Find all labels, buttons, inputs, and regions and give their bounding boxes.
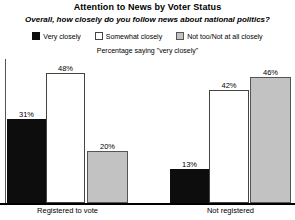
chart-legend: Very closely Somewhat closely Not too/No… (0, 30, 295, 42)
bar-registered-not-too-closely (87, 151, 128, 203)
bar-value-label: 42% (209, 81, 249, 90)
chart-note: Percentage saying "very closely" (0, 46, 295, 55)
legend-label: Not too/Not at all closely (187, 32, 262, 41)
bar-value-label: 48% (46, 64, 85, 73)
legend-label: Somewhat closely (106, 32, 162, 41)
legend-item-not-too-closely: Not too/Not at all closely (176, 32, 262, 41)
legend-item-very-closely: Very closely (32, 32, 80, 41)
legend-swatch-icon (176, 32, 184, 40)
chart-title: Attention to News by Voter Status (0, 2, 295, 13)
bar-value-label: 31% (7, 110, 46, 119)
bar-value-label: 46% (250, 68, 291, 77)
bar-chart: Attention to News by Voter Status Overal… (0, 0, 295, 220)
bar-registered-somewhat-closely (46, 73, 85, 203)
bar-registered-very-closely (7, 119, 46, 203)
legend-swatch-icon (32, 32, 40, 40)
plot-area: 31% 48% 20% Registered to vote 13% 42% 4… (0, 55, 295, 220)
bar-value-label: 13% (170, 160, 209, 169)
legend-swatch-icon (95, 32, 103, 40)
bar-value-label: 20% (87, 142, 128, 151)
y-axis-line (5, 59, 6, 203)
legend-item-somewhat-closely: Somewhat closely (95, 32, 162, 41)
bar-notregistered-not-too-closely (250, 77, 291, 203)
x-axis-group-label-not-registered: Not registered (170, 206, 291, 216)
bar-notregistered-somewhat-closely (209, 90, 249, 203)
legend-label: Very closely (43, 32, 80, 41)
bar-notregistered-very-closely (170, 169, 209, 203)
chart-subtitle: Overall, how closely do you follow news … (0, 15, 295, 25)
x-axis-line (0, 203, 295, 205)
x-axis-group-label-registered: Registered to vote (7, 206, 128, 216)
